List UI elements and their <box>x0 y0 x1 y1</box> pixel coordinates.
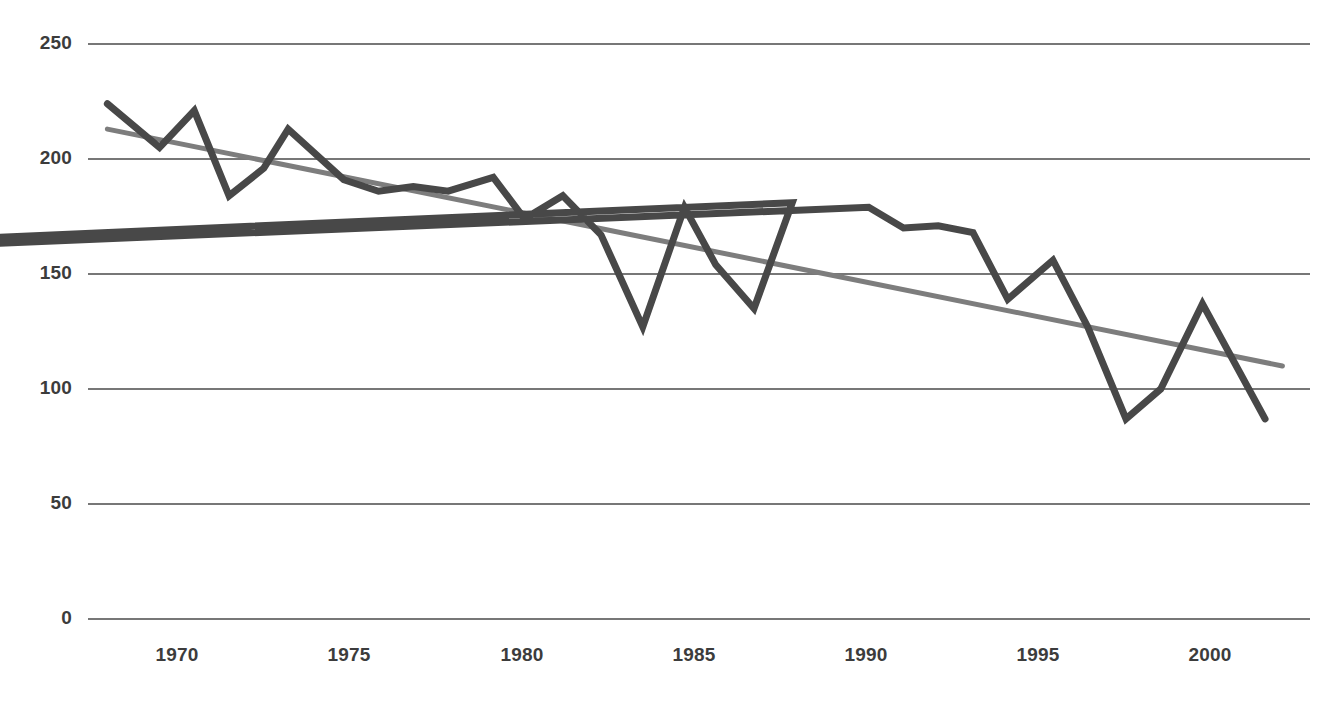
xtick-label-1995: 1995 <box>993 644 1083 666</box>
ytick-label-250: 250 <box>0 32 72 54</box>
ytick-label-50: 50 <box>0 492 72 514</box>
xtick-label-1980: 1980 <box>477 644 567 666</box>
chart-plot-area <box>0 0 1340 710</box>
ytick-label-150: 150 <box>0 262 72 284</box>
ytick-label-0: 0 <box>0 607 72 629</box>
line-chart: 250 200 150 100 50 0 1970 1975 1980 1985… <box>0 0 1340 710</box>
ytick-label-100: 100 <box>0 377 72 399</box>
ytick-label-200: 200 <box>0 147 72 169</box>
xtick-label-1970: 1970 <box>132 644 222 666</box>
xtick-label-1990: 1990 <box>821 644 911 666</box>
xtick-label-1975: 1975 <box>304 644 394 666</box>
chart-background <box>0 0 1340 710</box>
xtick-label-1985: 1985 <box>649 644 739 666</box>
xtick-label-2000: 2000 <box>1165 644 1255 666</box>
